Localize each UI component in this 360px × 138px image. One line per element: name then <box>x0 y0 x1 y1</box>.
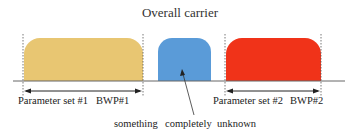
unknown-pointer-arrow <box>180 69 194 115</box>
bwp1-label: BWP#1 <box>96 95 129 106</box>
caption-word-something: something <box>114 118 158 129</box>
param-set-1-label: Parameter set #1 <box>18 95 88 106</box>
bwp1-width-arrow <box>24 89 142 94</box>
bwp2-width-arrow <box>226 89 320 94</box>
caption-word-unknown: unknown <box>217 118 256 129</box>
param-set-2-label: Parameter set #2 <box>213 95 283 106</box>
bwp2-label: BWP#2 <box>290 95 323 106</box>
caption-word-completely: completely <box>165 118 212 129</box>
